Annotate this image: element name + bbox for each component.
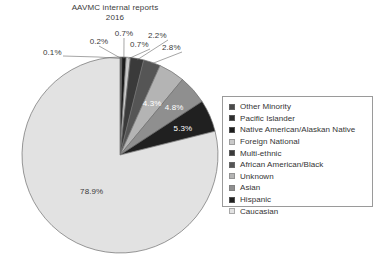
pie-callout-value-label: 0.7% [130, 40, 149, 49]
pie-callout-value-label: 2.8% [162, 43, 181, 52]
legend-swatch-icon [229, 139, 235, 145]
legend-item-label: Foreign National [240, 137, 300, 146]
pie-slice-value-label: 4.3% [143, 99, 162, 108]
legend-swatch-icon [229, 208, 235, 214]
legend-item-label: Native American/Alaskan Native [240, 125, 355, 134]
legend-item[interactable]: Other Minority [229, 101, 372, 113]
pie-callout-value-label: 0.2% [90, 37, 109, 46]
legend-item-label: Pacific Islander [240, 114, 295, 123]
pie-slice-value-label: 78.9% [80, 187, 103, 196]
legend-swatch-icon [229, 150, 235, 156]
pie-slice-value-label: 5.3% [174, 124, 193, 133]
legend-item-label: Hispanic [240, 195, 271, 204]
legend-item-label: Other Minority [240, 102, 291, 111]
legend-swatch-icon [229, 197, 235, 203]
legend-item-label: Asian [240, 183, 260, 192]
legend-item[interactable]: Asian [229, 182, 372, 194]
legend-item[interactable]: Hispanic [229, 194, 372, 206]
pie-callout-value-label: 0.7% [115, 29, 134, 38]
legend-swatch-icon [229, 173, 235, 179]
legend-item-label: African American/Black [240, 160, 323, 169]
legend-item-label: Caucasian [240, 207, 278, 216]
pie-callout-value-label: 2.2% [148, 31, 167, 40]
pie-leader-line [99, 46, 121, 59]
legend-item[interactable]: Unknown [229, 171, 372, 183]
legend-swatch-icon [229, 115, 235, 121]
legend-swatch-icon [229, 185, 235, 191]
legend-item[interactable]: Multi-ethnic [229, 147, 372, 159]
pie-slices-group [22, 57, 218, 253]
legend-item[interactable]: Foreign National [229, 136, 372, 148]
pie-chart-figure: AAVMC internal reports 2016 4.3%4.8%5.3%… [0, 0, 378, 260]
legend-item-label: Unknown [240, 172, 274, 181]
legend-item-label: Multi-ethnic [240, 149, 282, 158]
legend-item[interactable]: Native American/Alaskan Native [229, 124, 372, 136]
legend-item[interactable]: Caucasian [229, 205, 372, 217]
legend-swatch-icon [229, 127, 235, 133]
chart-legend: Other MinorityPacific IslanderNative Ame… [222, 96, 373, 207]
legend-swatch-icon [229, 162, 235, 168]
pie-callout-value-label: 0.1% [43, 48, 62, 57]
legend-swatch-icon [229, 104, 235, 110]
legend-item[interactable]: African American/Black [229, 159, 372, 171]
pie-leader-line [152, 52, 182, 64]
legend-item[interactable]: Pacific Islander [229, 113, 372, 125]
pie-slice-value-label: 4.8% [165, 103, 184, 112]
